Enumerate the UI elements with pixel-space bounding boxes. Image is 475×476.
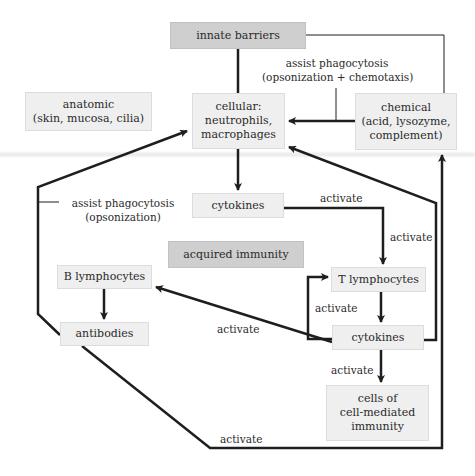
node-label-line: (acid, lysozyme, — [361, 115, 450, 129]
node-label: T lymphocytes — [338, 273, 419, 287]
edge-label-line: (opsonization + chemotaxis) — [262, 70, 412, 84]
node-b-lymphocytes: B lymphocytes — [57, 265, 152, 289]
node-cellular: cellular: neutrophils, macrophages — [192, 93, 285, 149]
node-chemical: chemical (acid, lysozyme, complement) — [355, 93, 457, 150]
edge-label-activate: activate — [315, 301, 357, 315]
node-cytokines-acquired: cytokines — [332, 325, 424, 350]
node-anatomic: anatomic (skin, mucosa, cilia) — [25, 92, 152, 131]
node-label-line: neutrophils, — [205, 114, 272, 128]
node-t-lymphocytes: T lymphocytes — [331, 267, 426, 292]
node-label: cytokines — [212, 199, 265, 213]
node-label-line: anatomic — [63, 98, 114, 112]
node-label: innate barriers — [196, 29, 280, 43]
node-label-line: cellular: — [216, 100, 262, 114]
edge-label-line: (opsonization) — [68, 210, 178, 224]
node-label-line: (skin, mucosa, cilia) — [33, 112, 144, 126]
edge-label-activate: activate — [390, 230, 432, 244]
node-label-line: macrophages — [201, 128, 276, 142]
node-label-line: immunity — [351, 420, 404, 434]
node-cytokines-innate: cytokines — [192, 193, 284, 218]
node-innate-barriers: innate barriers — [170, 22, 306, 49]
edge-label-activate: activate — [220, 432, 262, 446]
node-acquired-immunity: acquired immunity — [168, 241, 304, 268]
edge-label-line: assist phagocytosis — [262, 56, 412, 70]
edge-label-activate: activate — [331, 363, 373, 377]
node-label: acquired immunity — [183, 248, 288, 262]
node-antibodies: antibodies — [60, 322, 149, 346]
node-label-line: cells of — [358, 392, 398, 406]
node-label-line: chemical — [381, 101, 431, 115]
edge-label-line: assist phagocytosis — [68, 196, 178, 210]
node-label: cytokines — [352, 331, 405, 345]
node-label: antibodies — [76, 327, 134, 341]
edge-label-activate: activate — [320, 191, 362, 205]
edge-label-activate: activate — [217, 322, 259, 336]
node-label-line: complement) — [369, 129, 442, 143]
edge-label-opsonization-chemotaxis: assist phagocytosis (opsonization + chem… — [262, 56, 412, 84]
node-label: B lymphocytes — [64, 270, 145, 284]
node-cell-mediated-immunity: cells of cell-mediated immunity — [326, 385, 429, 441]
edge-label-opsonization: assist phagocytosis (opsonization) — [68, 196, 178, 224]
node-label-line: cell-mediated — [340, 406, 415, 420]
